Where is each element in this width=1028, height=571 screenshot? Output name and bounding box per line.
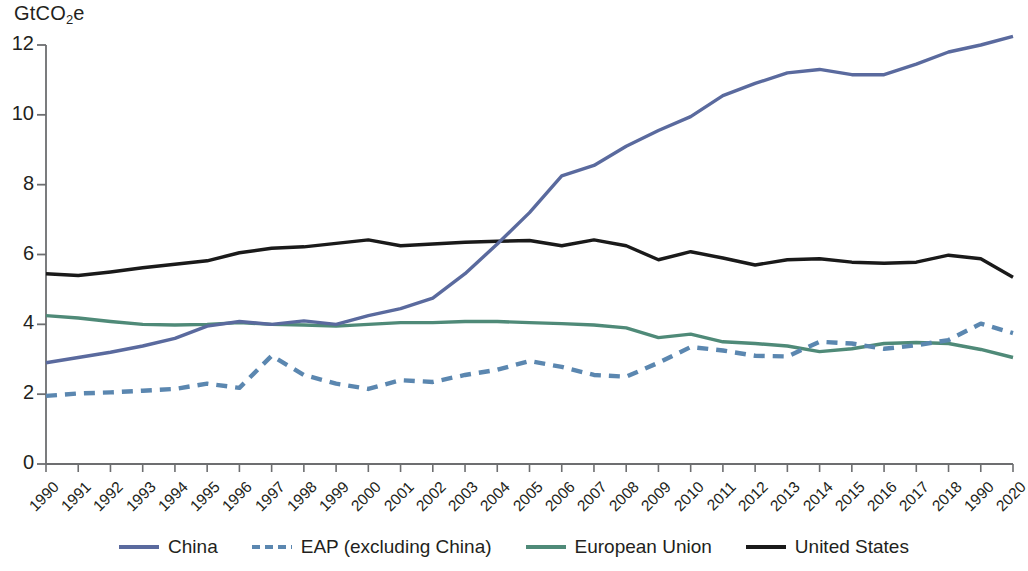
legend-swatch-solid [526,545,566,549]
legend-label: United States [795,536,909,558]
series-line-united-states [46,240,1013,277]
x-axis-ticks [46,464,1013,472]
plot-area [0,0,1028,571]
y-axis-ticks [37,45,46,464]
axis-lines [46,45,1013,464]
legend-swatch-dashed [252,545,292,549]
series-line-european-union [46,316,1013,358]
legend-item[interactable]: United States [746,536,909,558]
legend-label: EAP (excluding China) [301,536,492,558]
data-series [46,36,1013,396]
emissions-line-chart: GtCO2e 024681012 19901991199219931994199… [0,0,1028,571]
legend-item[interactable]: China [119,536,218,558]
series-line-china [46,36,1013,362]
chart-legend: ChinaEAP (excluding China)European Union… [0,536,1028,558]
legend-label: European Union [575,536,712,558]
legend-item[interactable]: European Union [526,536,712,558]
legend-swatch-solid [119,545,159,549]
legend-swatch-solid [746,545,786,549]
legend-label: China [168,536,218,558]
legend-item[interactable]: EAP (excluding China) [252,536,492,558]
series-line-eap-excluding-china [46,324,1013,396]
